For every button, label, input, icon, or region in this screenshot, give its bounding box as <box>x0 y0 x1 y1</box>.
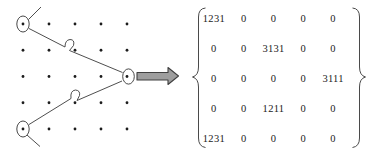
matrix-cell: 0 <box>229 4 259 34</box>
grid-dot <box>74 75 77 78</box>
state-matrix: 1231 0 0 0 0 0 0 3131 0 0 0 0 0 0 3111 0… <box>199 4 348 153</box>
matrix-cell: 0 <box>288 93 318 123</box>
grid-dot <box>48 49 51 52</box>
matrix-right-brace <box>353 8 366 148</box>
matrix-cell: 0 <box>288 4 318 34</box>
grid-dot <box>100 75 103 78</box>
grid-dot <box>100 23 103 26</box>
matrix-cell: 1231 <box>199 4 229 34</box>
grid-dot <box>100 101 103 104</box>
grid-dot <box>74 49 77 52</box>
dot-grid <box>22 23 129 131</box>
matrix-cell: 0 <box>199 64 229 94</box>
grid-dot <box>22 101 25 104</box>
matrix-cell: 1211 <box>259 93 289 123</box>
grid-dot <box>126 128 129 131</box>
grid-dot <box>126 49 129 52</box>
lower-tail-line <box>27 135 40 147</box>
grid-dot <box>22 49 25 52</box>
matrix-cell: 0 <box>259 123 289 153</box>
matrix-cell: 0 <box>259 4 289 34</box>
grid-dot <box>74 101 77 104</box>
grid-dot <box>126 23 129 26</box>
matrix-cell: 0 <box>288 34 318 64</box>
matrix-cell: 3111 <box>318 64 348 94</box>
matrix-cell: 0 <box>318 93 348 123</box>
matrix-cell: 0 <box>288 64 318 94</box>
circled-node-middle-right <box>123 69 135 84</box>
right-block-arrow-icon <box>137 68 179 85</box>
grid-dot <box>74 128 77 131</box>
grid-dot <box>48 128 51 131</box>
matrix-cell: 0 <box>229 34 259 64</box>
matrix-cell: 0 <box>288 123 318 153</box>
grid-dot <box>22 75 25 78</box>
matrix-cell: 0 <box>199 34 229 64</box>
matrix-cell: 0 <box>229 64 259 94</box>
matrix-cell: 0 <box>229 93 259 123</box>
matrix-cell: 0 <box>199 93 229 123</box>
grid-dot <box>126 75 129 78</box>
matrix-cell: 0 <box>229 123 259 153</box>
matrix-cell: 0 <box>318 123 348 153</box>
grid-dot <box>100 49 103 52</box>
matrix-cell: 3131 <box>259 34 289 64</box>
grid-dot <box>74 23 77 26</box>
upper-tail-line <box>29 7 42 20</box>
matrix-cell: 0 <box>318 4 348 34</box>
grid-dot <box>126 101 129 104</box>
grid-dot <box>22 23 25 26</box>
grid-dot <box>100 128 103 131</box>
grid-dot <box>48 101 51 104</box>
matrix-cell: 1231 <box>199 123 229 153</box>
grid-dot <box>48 23 51 26</box>
trellis-to-matrix-diagram: 1231 0 0 0 0 0 0 3131 0 0 0 0 0 0 3111 0… <box>0 0 372 159</box>
matrix-cell: 0 <box>259 64 289 94</box>
grid-dot <box>22 128 25 131</box>
grid-dot <box>48 75 51 78</box>
matrix-cell: 0 <box>318 34 348 64</box>
